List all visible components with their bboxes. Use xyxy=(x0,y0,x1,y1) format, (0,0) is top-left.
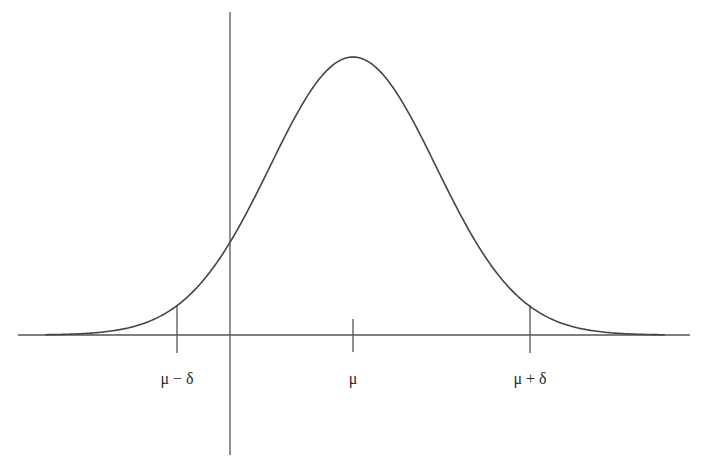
label-mu-plus-delta: μ + δ xyxy=(513,371,546,387)
label-mu: μ xyxy=(349,371,358,387)
normal-distribution-diagram: μ − δ μ μ + δ xyxy=(0,0,705,475)
gaussian-curve xyxy=(45,57,665,335)
label-mu-minus-delta: μ − δ xyxy=(160,371,193,387)
diagram-canvas xyxy=(0,0,705,475)
